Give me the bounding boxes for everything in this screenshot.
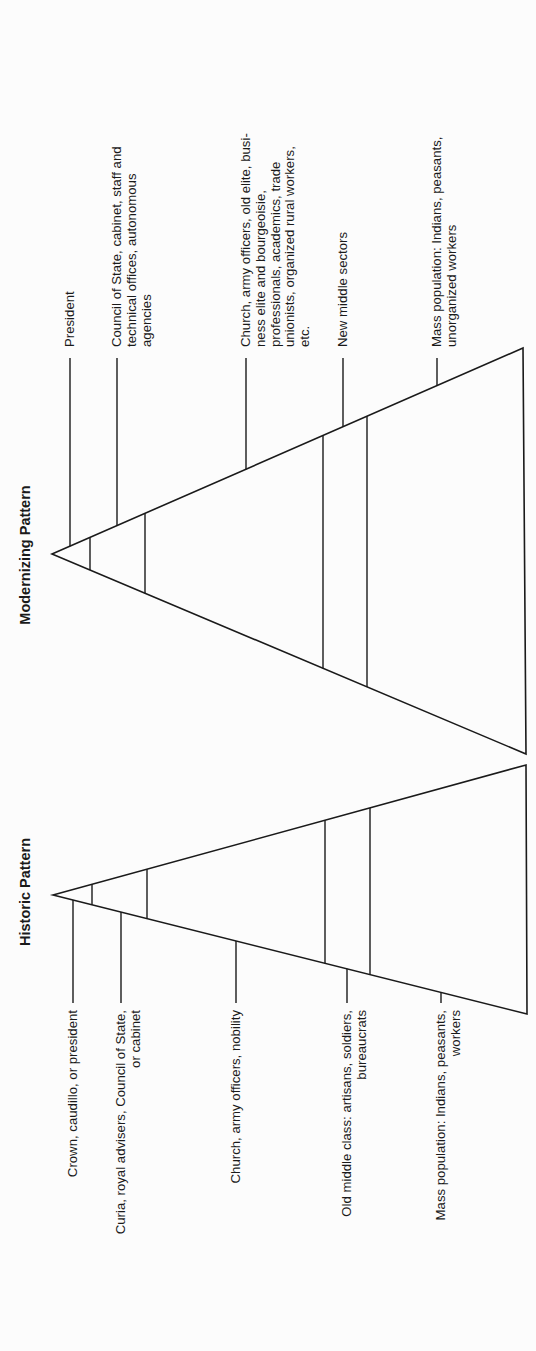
modernizing-label-3-line-4: unionists, organized rural workers, (282, 146, 297, 347)
historic-label-5-line-1: Mass population: Indians, peasants, (433, 1010, 448, 1220)
modernizing-label-1-line-1: President (62, 291, 77, 347)
modernizing-label-3-line-1: Church, army officers, old elite, busi- (238, 133, 253, 347)
modernizing-pattern-title: Modernizing Pattern (17, 485, 33, 624)
historic-label-3-line-1: Church, army officers, nobility (228, 1010, 243, 1184)
modernizing-label-3-line-2: ness elite and bourgeoisie, (253, 190, 268, 347)
modernizing-stratum-label-2: Council of State, cabinet, staff andtech… (109, 146, 154, 525)
social-structure-diagram: Modernizing PatternPresidentCouncil of S… (0, 0, 536, 1351)
historic-label-1-line-1: Crown, caudillo, or president (65, 1010, 80, 1177)
historic-pattern-title: Historic Pattern (17, 838, 33, 946)
modernizing-label-2-line-3: agencies (139, 294, 154, 347)
modernizing-pyramid-outline (52, 348, 526, 754)
modernizing-pattern-pyramid: Modernizing PatternPresidentCouncil of S… (17, 133, 526, 754)
modernizing-label-2-line-2: technical offices, autonomous (124, 173, 139, 347)
modernizing-stratum-label-4: New middle sectors (335, 232, 350, 427)
historic-pyramid-outline (53, 765, 527, 1014)
historic-label-2-line-1: Curia, royal advisers, Council of State, (113, 1010, 128, 1234)
modernizing-label-5-line-2: unorganized workers (444, 224, 459, 347)
historic-label-2-line-2: or cabinet (128, 1010, 143, 1068)
modernizing-label-2-line-1: Council of State, cabinet, staff and (109, 146, 124, 347)
modernizing-stratum-label-1: President (62, 291, 77, 546)
modernizing-label-3-line-3: professionals, academics, trade (268, 162, 283, 347)
historic-label-5-line-2: workers (448, 1010, 463, 1058)
modernizing-stratum-label-3: Church, army officers, old elite, busi-n… (238, 133, 312, 469)
modernizing-label-5-line-1: Mass population: Indians, peasants, (429, 137, 444, 347)
modernizing-label-4-line-1: New middle sectors (335, 232, 350, 347)
historic-pattern-pyramid: Historic PatternCrown, caudillo, or pres… (17, 765, 527, 1234)
historic-stratum-label-5: Mass population: Indians, peasants,worke… (433, 992, 463, 1220)
historic-stratum-label-4: Old middle class: artisans, soldiers,bur… (339, 969, 369, 1217)
historic-stratum-label-1: Crown, caudillo, or president (65, 900, 80, 1177)
historic-stratum-label-3: Church, army officers, nobility (228, 941, 243, 1184)
modernizing-label-3-line-5: etc. (297, 326, 312, 347)
historic-stratum-label-2: Curia, royal advisers, Council of State,… (113, 912, 143, 1234)
modernizing-stratum-label-5: Mass population: Indians, peasants,unorg… (429, 137, 459, 386)
historic-label-4-line-2: bureaucrats (354, 1010, 369, 1080)
historic-label-4-line-1: Old middle class: artisans, soldiers, (339, 1010, 354, 1217)
